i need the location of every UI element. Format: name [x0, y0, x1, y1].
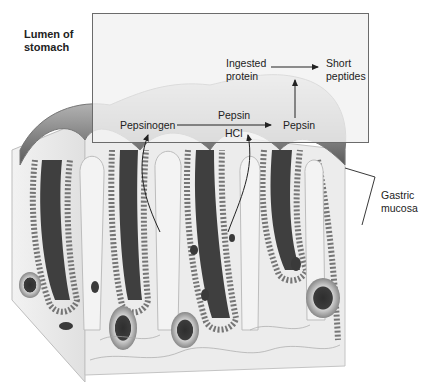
label-lumen-of-stomach: Lumen of stomach [24, 28, 74, 54]
label-line: Ingested [226, 57, 266, 70]
label-pepsinogen: Pepsinogen [120, 119, 175, 132]
label-line: stomach [24, 41, 74, 54]
label-pepsin-catalyst: Pepsin [218, 109, 250, 122]
label-ingested-protein: Ingested protein [226, 57, 266, 82]
label-line: mucosa [381, 202, 418, 215]
label-short-peptides: Short peptides [326, 57, 366, 82]
label-line: Gastric [381, 189, 418, 202]
label-line: Lumen of [24, 28, 74, 41]
label-line: protein [226, 70, 266, 83]
label-pepsin-product: Pepsin [283, 119, 315, 132]
label-gastric-mucosa: Gastric mucosa [381, 189, 418, 214]
label-line: peptides [326, 70, 366, 83]
label-line: Short [326, 57, 366, 70]
label-hcl: HCl [225, 127, 243, 140]
